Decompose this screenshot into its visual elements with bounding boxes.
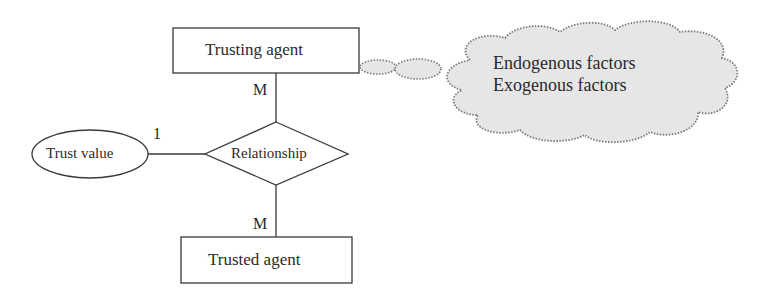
cardinality-trusted: M [253, 216, 267, 232]
cardinality-trusting: M [253, 82, 267, 98]
entity-trusting-agent-label: Trusting agent [205, 41, 303, 58]
cloud-text: Endogenous factors Exogenous factors [493, 52, 635, 96]
exogenous-factors-text: Exogenous factors [493, 74, 635, 96]
relationship-label: Relationship [231, 146, 307, 161]
cardinality-trust-value: 1 [153, 126, 161, 142]
thought-bubble-small [360, 60, 396, 74]
attribute-trust-value-label: Trust value [46, 146, 113, 161]
endogenous-factors-text: Endogenous factors [493, 52, 635, 74]
thought-bubble-medium [395, 59, 441, 79]
diagram-canvas [0, 0, 767, 297]
entity-trusted-agent-label: Trusted agent [208, 251, 300, 268]
